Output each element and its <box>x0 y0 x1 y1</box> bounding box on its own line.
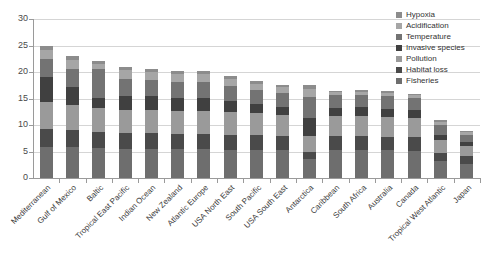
bar-segment <box>171 134 184 149</box>
x-tick-mark <box>59 179 60 183</box>
bar-group[interactable] <box>434 120 447 178</box>
bar-group[interactable] <box>276 85 289 178</box>
bar-segment <box>197 82 210 98</box>
bar-segment <box>460 164 473 178</box>
y-tick-label-30: 30 <box>2 14 28 23</box>
bar-segment <box>145 80 158 96</box>
bar-group[interactable] <box>355 90 368 178</box>
legend-item[interactable]: Temperature <box>396 31 484 42</box>
x-tick-mark <box>427 179 428 183</box>
bar-segment <box>276 136 289 150</box>
bar-group[interactable] <box>66 56 79 178</box>
bar-segment <box>197 149 210 178</box>
legend-label: Habitat loss <box>406 65 448 74</box>
y-tick-mark <box>29 72 34 73</box>
x-axis-label-text: South Pacific <box>223 183 262 222</box>
bar-segment <box>250 90 263 104</box>
y-tick-mark <box>29 152 34 153</box>
bar-segment <box>224 101 237 112</box>
bar-segment <box>145 96 158 110</box>
x-tick-mark <box>138 179 139 183</box>
x-tick-mark <box>86 179 87 183</box>
bar-segment <box>40 50 53 60</box>
bar-segment <box>276 93 289 106</box>
x-tick-mark <box>112 179 113 183</box>
legend-item[interactable]: Hypoxia <box>396 9 484 20</box>
x-axis-label-text: Caribbean <box>309 183 341 215</box>
bar-segment <box>460 156 473 163</box>
bar-segment <box>276 150 289 178</box>
bar-segment <box>119 70 132 80</box>
bar-group[interactable] <box>197 71 210 178</box>
bar-segment <box>40 147 53 178</box>
bar-group[interactable] <box>145 69 158 178</box>
y-tick-label-15: 15 <box>2 94 28 103</box>
bar-segment <box>303 159 316 178</box>
x-axis-label-text: South Africa <box>331 183 368 220</box>
bar-segment <box>408 98 421 110</box>
legend-label: Fisheries <box>406 76 438 85</box>
x-axis-label-text: Australia <box>366 183 394 211</box>
bar-segment <box>40 129 53 147</box>
bar-segment <box>92 108 105 132</box>
bar-segment <box>434 153 447 161</box>
bar-group[interactable] <box>119 67 132 178</box>
bar-group[interactable] <box>329 91 342 178</box>
bar-segment <box>434 125 447 135</box>
bar-group[interactable] <box>381 91 394 178</box>
bar-group[interactable] <box>460 131 473 178</box>
bar-segment <box>224 79 237 86</box>
x-axis-label-text: Indian Ocean <box>117 183 157 223</box>
legend-item[interactable]: Invasive species <box>396 42 484 53</box>
bar-segment <box>40 59 53 77</box>
bar-segment <box>355 95 368 107</box>
bar-segment <box>329 116 342 137</box>
y-tick-mark <box>29 46 34 47</box>
bar-segment <box>171 98 184 111</box>
bar-segment <box>250 150 263 178</box>
legend-item[interactable]: Fisheries <box>396 75 484 86</box>
bar-segment <box>145 133 158 149</box>
x-tick-mark <box>375 179 376 183</box>
bar-group[interactable] <box>40 46 53 178</box>
bar-segment <box>303 118 316 136</box>
chart-legend: HypoxiaAcidificationTemperatureInvasive … <box>396 9 484 86</box>
bar-segment <box>171 149 184 178</box>
bar-segment <box>303 136 316 152</box>
y-tick-label-5: 5 <box>2 147 28 156</box>
bar-segment <box>119 133 132 149</box>
x-axis-label-text: Japan <box>451 183 473 205</box>
bar-segment <box>224 135 237 150</box>
bar-group[interactable] <box>303 85 316 178</box>
x-axis-label-text: Antarctica <box>284 183 316 215</box>
x-tick-mark <box>349 179 350 183</box>
legend-item[interactable]: Acidification <box>396 20 484 31</box>
bar-segment <box>408 118 421 138</box>
x-axis-label-text: USA South East <box>242 183 289 230</box>
bar-segment <box>276 115 289 136</box>
x-axis-label-text: Gulf of Mexico <box>36 183 79 226</box>
bar-group[interactable] <box>171 71 184 178</box>
legend-item[interactable]: Habitat loss <box>396 64 484 75</box>
y-tick-label-0: 0 <box>2 173 28 182</box>
legend-swatch-icon <box>396 34 402 40</box>
bar-segment <box>66 147 79 178</box>
bar-group[interactable] <box>250 81 263 178</box>
bar-group[interactable] <box>408 94 421 178</box>
x-axis-label-text: Tropical West Atlantic <box>386 183 446 243</box>
bar-segment <box>250 104 263 114</box>
legend-swatch-icon <box>396 12 402 18</box>
bar-segment <box>381 96 394 108</box>
legend-label: Pollution <box>406 54 437 63</box>
bar-segment <box>171 82 184 98</box>
legend-swatch-icon <box>396 23 402 29</box>
y-tick-label-20: 20 <box>2 67 28 76</box>
y-tick-mark <box>29 19 34 20</box>
bar-group[interactable] <box>224 76 237 178</box>
bar-segment <box>303 97 316 118</box>
bar-segment <box>171 111 184 134</box>
bar-segment <box>66 60 79 70</box>
bar-group[interactable] <box>92 61 105 178</box>
legend-item[interactable]: Pollution <box>396 53 484 64</box>
bar-segment <box>460 135 473 142</box>
